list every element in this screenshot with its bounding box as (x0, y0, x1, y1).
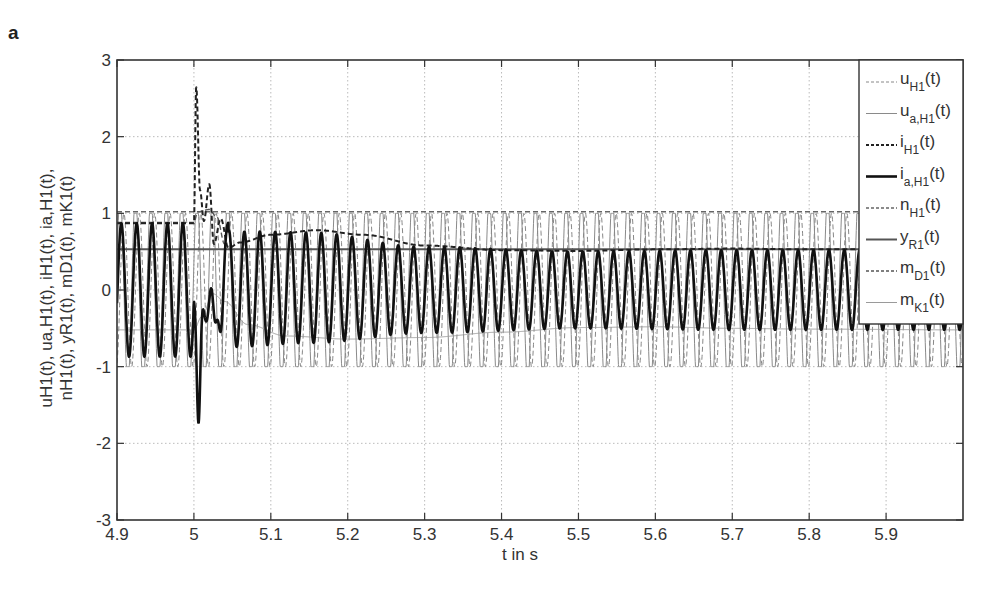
y-tick-label: 1 (102, 204, 111, 223)
legend: uH1(t)ua,H1(t)iH1(t)ia,H1(t)nH1(t)yR1(t)… (859, 60, 963, 324)
y-axis-label: uH1(t), ua,H1(t), iH1(t), ia,H1(t),nH1(t… (37, 169, 76, 408)
x-tick-label: 5.9 (874, 525, 898, 544)
y-tick-label: 3 (102, 51, 111, 70)
y-axis-label-line: nH1(t), yR1(t), mD1(t), mK1(t) (57, 176, 76, 401)
x-axis-label: t in s (502, 545, 538, 564)
series-i-h1 (117, 87, 963, 251)
y-tick-label: 2 (102, 128, 111, 147)
x-tick-label: 5.3 (413, 525, 437, 544)
y-axis-label-line: uH1(t), ua,H1(t), iH1(t), ia,H1(t), (37, 169, 56, 408)
plot-series (117, 87, 963, 422)
y-tick-label: 0 (102, 281, 111, 300)
y-tick-label: -3 (96, 511, 111, 530)
line-chart: 4.955.15.25.35.45.55.65.75.85.93210-1-2-… (0, 0, 991, 597)
x-tick-label: 5 (189, 525, 198, 544)
y-tick-label: -1 (96, 358, 111, 377)
x-tick-label: 5.8 (797, 525, 821, 544)
y-tick-label: -2 (96, 434, 111, 453)
x-tick-label: 5.7 (720, 525, 744, 544)
x-tick-label: 5.1 (259, 525, 283, 544)
x-tick-label: 5.6 (644, 525, 668, 544)
x-tick-label: 5.4 (490, 525, 514, 544)
x-tick-label: 5.5 (567, 525, 591, 544)
x-tick-label: 5.2 (336, 525, 360, 544)
